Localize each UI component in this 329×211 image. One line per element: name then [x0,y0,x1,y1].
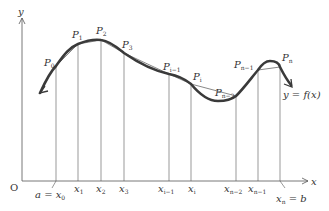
tick-label: xn−1 [248,183,266,195]
b-leader-line [280,181,285,188]
point-label: Pn−1 [233,59,253,71]
y-axis-label: y [17,6,24,17]
arc-length-diagram: y x O P0P1P2P3Pi−1PiPn−2Pn−1Pn a = x0x1x… [0,0,329,211]
point-label: Pi−1 [162,61,181,73]
point-label: Pn−2 [214,87,235,99]
tick-label: xn−2 [224,183,243,195]
x-axis-label: x [311,176,317,187]
tick-label: xi−1 [158,183,174,195]
point-label: Pn [281,52,293,64]
point-label: Pi [192,71,202,83]
tick-label: a = x0 [35,189,65,201]
tick-label: xi [188,183,196,195]
tick-label: x2 [96,183,106,195]
point-label: P2 [95,25,107,37]
point-label: P0 [43,57,55,69]
point-labels: P0P1P2P3Pi−1PiPn−2Pn−1Pn [43,25,293,99]
function-label: y = f(x) [282,89,321,100]
tick-label: x3 [119,183,129,195]
origin-label: O [10,182,18,193]
point-label: P3 [121,39,133,51]
tick-label: x1 [74,183,83,195]
tick-label: xn = b [276,193,307,205]
point-label: P1 [71,29,83,41]
a-leader-line [52,181,56,188]
tick-labels: a = x0x1x2x3xi−1xixn−2xn−1xn = b [35,183,307,205]
